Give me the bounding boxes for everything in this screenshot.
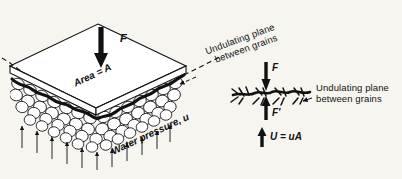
- figure-canvas: F Area = A Water pressure, u Undulating …: [0, 0, 402, 179]
- uplift-U-arrow: [258, 127, 267, 147]
- force-F-detail-arrow: [262, 62, 271, 91]
- label-force-F-left: F: [120, 32, 127, 44]
- label-force-F-prime: F': [272, 107, 281, 118]
- undulating-plane-detail: [231, 87, 310, 105]
- callout-right-line2: between grains: [316, 94, 389, 105]
- callout-leader-right: [303, 98, 312, 101]
- callout-right-line1: Undulating plane: [316, 83, 389, 94]
- label-force-F-right: F: [272, 62, 278, 73]
- label-uplift-U: U = uA: [270, 131, 302, 142]
- callout-undulating-plane-right: Undulating plane between grains: [316, 83, 389, 104]
